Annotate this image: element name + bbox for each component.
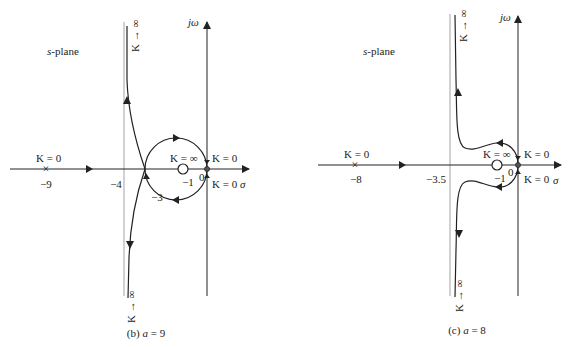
origin-value: 0 <box>508 166 514 178</box>
origin-upper-k-label: K = 0 <box>212 152 238 164</box>
plane-label: s-plane <box>363 45 395 57</box>
plot-b: × s-plane jω σ K = 0 −9 −4 K = ∞ −1 0 K … <box>10 16 249 340</box>
asymptote-value: −4 <box>110 178 122 190</box>
pole-far-k-label: K = 0 <box>36 152 62 164</box>
locus-lower-branch <box>455 165 518 297</box>
zero-value: −1 <box>494 172 506 184</box>
plane-label: s-plane <box>47 45 79 57</box>
origin-value: 0 <box>199 171 205 183</box>
imag-axis-label: jω <box>186 16 199 28</box>
caption: (b) a = 9 <box>127 327 166 340</box>
origin-arrow-upper <box>204 160 210 164</box>
upper-hump-arrow <box>496 139 503 147</box>
upper-branch-arrow <box>454 88 462 96</box>
origin-arrow-upper <box>515 156 521 160</box>
lower-branch-k-label: K → ∞ <box>125 291 137 323</box>
breakaway-value: −3 <box>151 191 163 203</box>
pole-far-value: −8 <box>350 173 362 185</box>
imag-axis-label: jω <box>498 11 511 23</box>
lower-branch-arrow <box>126 241 134 249</box>
pole-far-value: −9 <box>40 178 52 190</box>
zero-k-label: K = ∞ <box>170 152 198 164</box>
plot-c: × s-plane jω σ K = 0 −8 −3.5 K = ∞ −1 0 … <box>318 10 561 337</box>
lower-branch-k-label: K → ∞ <box>453 280 465 312</box>
real-axis-label: σ <box>553 174 559 186</box>
origin-lower-k-label: K = 0 <box>524 173 550 185</box>
circle-arrow-upper <box>173 134 180 142</box>
root-locus-figure: × s-plane jω σ K = 0 −9 −4 K = ∞ −1 0 K … <box>0 0 569 347</box>
asymptote-value: −3.5 <box>426 173 446 185</box>
pole-x-marker: × <box>352 158 359 172</box>
pole-far-k-label: K = 0 <box>344 148 370 160</box>
real-axis-label: σ <box>240 178 246 190</box>
real-axis-direction-arrow <box>86 165 93 173</box>
upper-branch-k-label: K → ∞ <box>457 10 469 42</box>
origin-arrow-lower <box>204 174 210 178</box>
zero-value: −1 <box>182 176 194 188</box>
locus-lower-branch <box>128 169 145 298</box>
caption: (c) a = 8 <box>448 324 486 337</box>
upper-branch-k-label: K → ∞ <box>129 20 141 52</box>
zero-marker <box>492 160 502 170</box>
origin-pole-marker <box>205 167 210 172</box>
zero-marker <box>178 164 188 174</box>
zero-k-label: K = ∞ <box>483 148 511 160</box>
breakaway-arrow <box>143 173 150 179</box>
real-axis-direction-arrow <box>399 161 406 169</box>
origin-pole-marker <box>516 163 521 168</box>
pole-x-marker: × <box>43 162 50 176</box>
lower-hump-arrow <box>495 183 502 191</box>
origin-arrow-lower <box>515 170 521 174</box>
origin-lower-k-label: K = 0 <box>212 178 238 190</box>
circle-arrow-lower <box>172 196 179 204</box>
origin-upper-k-label: K = 0 <box>524 148 550 160</box>
